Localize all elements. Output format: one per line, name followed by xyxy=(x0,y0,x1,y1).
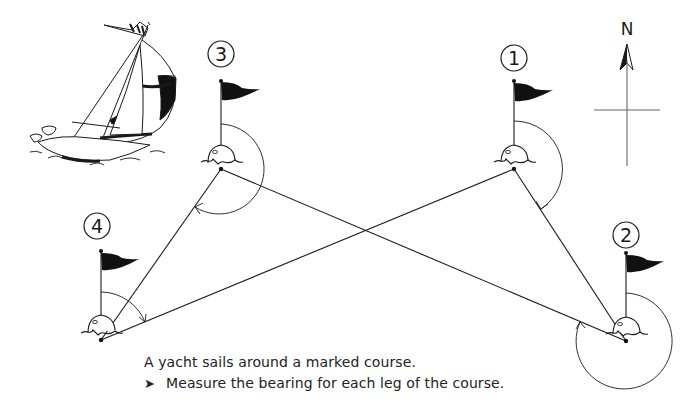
flag-icon xyxy=(101,253,139,270)
yacht-illustration: IO 53 xyxy=(30,22,176,165)
buoy-1-label: 1 xyxy=(508,47,520,69)
course-diagram: 3 1 4 xyxy=(0,0,698,409)
bearing-arc-3 xyxy=(195,124,264,214)
bullet-arrow-icon: ➤ xyxy=(144,373,166,394)
caption: A yacht sails around a marked course. ➤ … xyxy=(144,352,504,394)
buoy-3-label: 3 xyxy=(215,43,227,65)
buoy-3: 3 xyxy=(201,41,260,171)
buoy-1: 1 xyxy=(494,45,553,171)
north-label: N xyxy=(621,19,634,39)
bearing-arcs xyxy=(101,121,672,389)
buoy-4-label: 4 xyxy=(91,215,103,237)
buoy-2: 2 xyxy=(606,222,664,343)
buoy-4: 4 xyxy=(81,213,139,342)
instruction-text: Measure the bearing for each leg of the … xyxy=(166,373,504,394)
north-compass: N xyxy=(594,19,660,166)
flag-icon xyxy=(514,83,553,101)
bearing-arc-1 xyxy=(514,121,562,209)
caption-intro: A yacht sails around a marked course. xyxy=(144,352,504,373)
buoy-dome-icon xyxy=(613,317,640,334)
course-legs xyxy=(101,169,626,341)
leg-1-to-2 xyxy=(514,169,626,341)
buoy-2-label: 2 xyxy=(620,224,632,246)
buoy-dome-icon xyxy=(88,315,115,333)
flag-icon xyxy=(221,82,260,100)
leg-3-to-4 xyxy=(101,169,221,340)
buoy-dome-icon xyxy=(501,145,528,162)
flag-icon xyxy=(626,255,664,272)
leg-4-to-1 xyxy=(101,169,514,340)
svg-text:IO 53: IO 53 xyxy=(160,74,176,81)
caption-instruction: ➤ Measure the bearing for each leg of th… xyxy=(144,373,504,394)
leg-2-to-3 xyxy=(221,169,626,341)
arc-arrowhead-icon xyxy=(139,314,146,322)
